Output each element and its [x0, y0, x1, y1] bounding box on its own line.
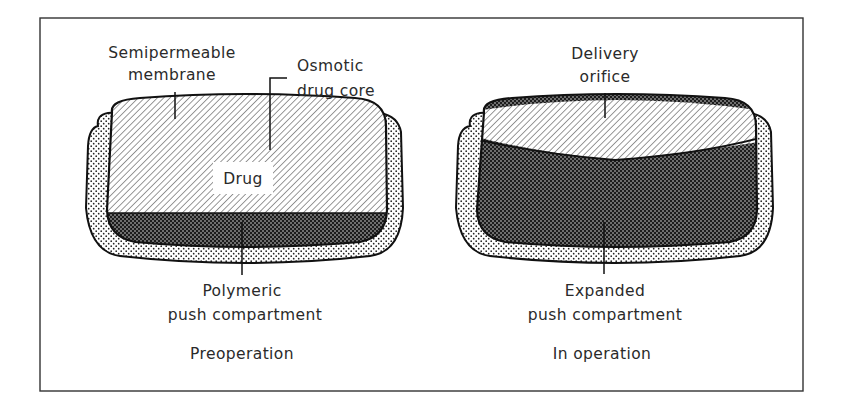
osmotic-pump-diagram: Drug Semipermeable membrane Osmotic drug…: [0, 0, 846, 414]
caption-in-operation: In operation: [553, 345, 652, 363]
membrane-label-line2: membrane: [128, 66, 216, 84]
panel-preoperation: Drug Semipermeable membrane Osmotic drug…: [86, 44, 403, 363]
figure-container: Drug Semipermeable membrane Osmotic drug…: [0, 0, 846, 414]
push-label-line2: push compartment: [168, 306, 322, 324]
expanded-push-label-line1: Expanded: [565, 282, 646, 300]
caption-preoperation: Preoperation: [190, 345, 294, 363]
panel-in-operation: Delivery orifice Expanded push compartme…: [456, 45, 773, 363]
orifice-label-line1: Delivery: [571, 45, 639, 63]
core-label-line2: drug core: [297, 82, 375, 100]
orifice-label-line2: orifice: [580, 68, 631, 86]
push-label-line1: Polymeric: [202, 282, 281, 300]
membrane-label-line1: Semipermeable: [108, 44, 235, 62]
core-label-line1: Osmotic: [297, 57, 364, 75]
drug-label: Drug: [223, 170, 263, 188]
expanded-push-label-line2: push compartment: [528, 306, 682, 324]
